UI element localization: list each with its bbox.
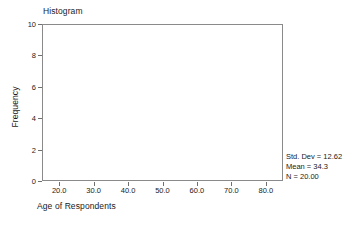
x-axis-tick-label: 60.0 — [190, 186, 205, 195]
y-axis-title: Frequency — [10, 72, 20, 142]
bars-layer — [43, 25, 282, 180]
y-axis-tick-label: 8 — [8, 51, 36, 60]
x-axis-tick-label: 70.0 — [224, 186, 239, 195]
y-axis-tick-label: 2 — [8, 145, 36, 154]
mean-text: Mean = 34.3 — [286, 162, 342, 172]
sample-size-text: N = 20.00 — [286, 172, 342, 182]
chart-title: Histogram — [43, 6, 83, 16]
statistics-annotation: Std. Dev = 12.62 Mean = 34.3 N = 20.00 — [286, 152, 342, 182]
plot-interior — [43, 25, 282, 180]
y-axis-tick-label: 0 — [8, 177, 36, 186]
x-axis-title: Age of Respondents — [37, 201, 116, 211]
x-axis-tick-label: 30.0 — [86, 186, 101, 195]
y-axis-tick-label: 10 — [8, 20, 36, 29]
std-dev-text: Std. Dev = 12.62 — [286, 152, 342, 162]
x-axis-tick-label: 50.0 — [155, 186, 170, 195]
histogram-chart-screenshot: Histogram 0246810 Frequency 20.030.040.0… — [0, 0, 352, 226]
plot-area — [42, 24, 283, 181]
x-axis-tick-label: 80.0 — [258, 186, 273, 195]
y-axis-tick — [38, 181, 42, 182]
x-axis-tick-label: 20.0 — [52, 186, 67, 195]
x-axis-tick-label: 40.0 — [121, 186, 136, 195]
